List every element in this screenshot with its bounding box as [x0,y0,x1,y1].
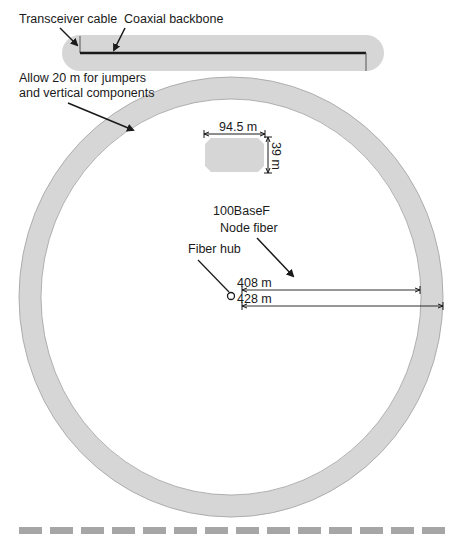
dash-segment [236,527,259,534]
transceiver-cable-label: Transceiver cable [19,12,117,26]
building-footprint [205,138,264,172]
allow-label-line2: and vertical components [19,86,155,100]
standard-label: 100BaseF [213,204,270,218]
dash-segment [360,527,383,534]
node-fiber-label: Node fiber [220,221,278,235]
backbone-segment [62,35,384,71]
building-height-label: 39 m [269,142,283,170]
dash-segment [81,527,104,534]
fiber-hub-label: Fiber hub [188,242,241,256]
coaxial-backbone-label: Coaxial backbone [124,12,223,26]
dashed-boundary [19,527,445,534]
dash-segment [50,527,73,534]
building-width-label: 94.5 m [219,120,257,134]
dash-segment [205,527,228,534]
dim-inner-label: 408 m [237,276,272,290]
fiber-hub-icon [228,293,235,300]
dash-segment [112,527,135,534]
dash-segment [298,527,321,534]
dash-segment [143,527,166,534]
node-fiber-arrow [257,238,293,276]
dash-segment [267,527,290,534]
dash-segment [329,527,352,534]
dash-segment [174,527,197,534]
dash-segment [19,527,42,534]
dash-segment [391,527,414,534]
network-diagram: Transceiver cable Coaxial backbone Allow… [0,0,460,540]
allow-label-line1: Allow 20 m for jumpers [19,71,146,85]
fiber-hub-pointer [198,260,229,292]
dash-segment [422,527,445,534]
dim-outer-label: 428 m [237,292,272,306]
